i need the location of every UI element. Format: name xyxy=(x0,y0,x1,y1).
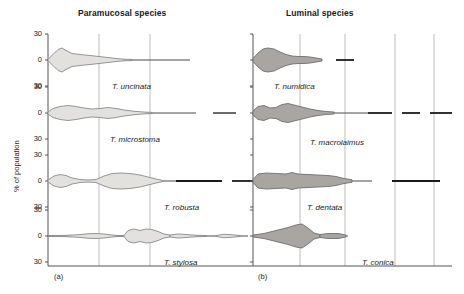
violin-shape-a-3-0 xyxy=(48,234,124,239)
species-label-a-1: T. microstoma xyxy=(110,135,160,144)
violin-shape-b-3-0 xyxy=(253,224,320,248)
y-tick-label-a-0-0: 30 xyxy=(28,29,42,38)
violin-shape-b-2-0 xyxy=(253,173,352,190)
violin-shape-a-2-0 xyxy=(48,173,162,189)
violin-shape-b-1-0 xyxy=(253,104,334,123)
violin-plot-canvas xyxy=(0,0,464,294)
panel-b xyxy=(250,34,452,266)
y-tick-label-a-3-0: 30 xyxy=(28,205,42,214)
y-tick-label-a-1-2: 30 xyxy=(28,134,42,143)
species-label-b-1: T. macrolaimus xyxy=(310,138,364,147)
species-label-a-2: T. robusta xyxy=(164,203,199,212)
violin-shape-a-3-3 xyxy=(216,234,240,238)
y-tick-label-a-1-1: 0 xyxy=(28,108,42,117)
violin-shape-a-3-1 xyxy=(124,229,170,243)
violin-row-a-1 xyxy=(45,87,236,139)
species-label-b-2: T. dentata xyxy=(307,203,342,212)
violin-shape-b-0-0 xyxy=(253,48,322,72)
violin-shape-a-1-0 xyxy=(48,106,152,121)
violin-row-b-0 xyxy=(250,34,354,86)
violin-row-b-1 xyxy=(250,87,452,139)
panel-a xyxy=(45,34,260,266)
species-label-a-3: T. stylosa xyxy=(164,258,198,267)
violin-row-a-0 xyxy=(45,34,190,86)
violin-row-a-3 xyxy=(45,210,248,262)
species-label-b-0: T. numidica xyxy=(274,82,315,91)
y-tick-label-a-2-0: 30 xyxy=(28,150,42,159)
y-tick-label-a-1-0: 30 xyxy=(28,82,42,91)
violin-shape-a-0-0 xyxy=(48,48,132,72)
y-tick-label-a-3-1: 0 xyxy=(28,231,42,240)
violin-row-a-2 xyxy=(45,155,260,207)
violin-shape-a-3-2 xyxy=(170,234,206,238)
y-tick-label-a-0-1: 0 xyxy=(28,55,42,64)
y-tick-label-a-2-1: 0 xyxy=(28,176,42,185)
figure-root: Paramucosal species Luminal species % of… xyxy=(0,0,464,294)
violin-shape-b-3-1 xyxy=(320,234,346,239)
violin-row-b-3 xyxy=(250,210,348,262)
y-tick-label-a-3-2: 30 xyxy=(28,257,42,266)
species-label-a-0: T. uncinata xyxy=(112,82,151,91)
species-label-b-3: T. conica xyxy=(362,258,394,267)
